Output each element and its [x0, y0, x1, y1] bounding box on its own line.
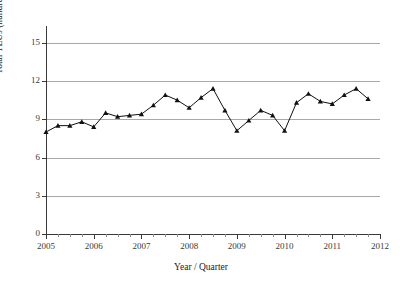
data-point-marker: [222, 108, 227, 113]
x-tick-major: [189, 234, 190, 239]
x-tick-minor: [344, 234, 345, 237]
chart-container: 03691215 2005200620072008200920102011201…: [0, 0, 402, 287]
x-tick-label: 2012: [371, 241, 389, 252]
data-series-line: [46, 30, 380, 234]
x-tick-label: 2008: [180, 241, 198, 252]
y-tick-label: 12: [31, 76, 40, 85]
y-tick-label-wrap: 3: [0, 191, 40, 200]
x-axis-title: Year / Quarter: [0, 262, 402, 272]
y-tick-label-wrap: 15: [0, 38, 40, 47]
x-tick-major: [285, 234, 286, 239]
data-point-marker: [354, 86, 359, 91]
x-tick-minor: [225, 234, 226, 237]
y-tick-label-wrap: 9: [0, 114, 40, 123]
x-tick-minor: [130, 234, 131, 237]
x-tick-major: [94, 234, 95, 239]
x-tick-minor: [106, 234, 107, 237]
x-tick-minor: [118, 234, 119, 237]
x-tick-minor: [153, 234, 154, 237]
y-tick-label-wrap: 0: [0, 229, 40, 238]
y-tick-label: 9: [36, 114, 41, 123]
x-tick-minor: [320, 234, 321, 237]
y-tick-label-wrap: 12: [0, 76, 40, 85]
plot-area: [46, 30, 380, 234]
x-tick-label: 2006: [85, 241, 103, 252]
y-tick-label: 6: [36, 153, 41, 162]
x-tick-minor: [82, 234, 83, 237]
x-tick-label: 2011: [323, 241, 341, 252]
x-tick-minor: [58, 234, 59, 237]
y-tick-label-wrap: 6: [0, 153, 40, 162]
x-tick-label: 2009: [228, 241, 246, 252]
x-tick-minor: [261, 234, 262, 237]
data-point-marker: [163, 92, 168, 97]
data-point-marker: [342, 92, 347, 97]
x-tick-label: 2010: [276, 241, 294, 252]
data-point-marker: [210, 86, 215, 91]
data-point-marker: [103, 110, 108, 115]
x-tick-minor: [273, 234, 274, 237]
x-tick-minor: [213, 234, 214, 237]
data-point-marker: [43, 129, 48, 134]
x-tick-minor: [249, 234, 250, 237]
x-tick-label: 2007: [132, 241, 150, 252]
data-point-marker: [258, 108, 263, 113]
x-tick-major: [237, 234, 238, 239]
y-tick-label: 0: [36, 229, 41, 238]
data-point-marker: [318, 99, 323, 104]
y-axis-title: Total TEUs (hundred thousands): [0, 0, 4, 74]
x-tick-major: [380, 234, 381, 239]
x-tick-minor: [356, 234, 357, 237]
x-tick-label: 2005: [37, 241, 55, 252]
data-point-marker: [79, 119, 84, 124]
x-tick-minor: [297, 234, 298, 237]
x-tick-minor: [165, 234, 166, 237]
x-tick-major: [141, 234, 142, 239]
x-tick-major: [332, 234, 333, 239]
y-tick-label: 15: [31, 38, 40, 47]
y-tick-label: 3: [36, 191, 41, 200]
x-tick-major: [46, 234, 47, 239]
x-tick-minor: [70, 234, 71, 237]
x-tick-minor: [308, 234, 309, 237]
x-tick-minor: [177, 234, 178, 237]
x-tick-minor: [368, 234, 369, 237]
x-tick-minor: [201, 234, 202, 237]
data-point-marker: [306, 91, 311, 96]
